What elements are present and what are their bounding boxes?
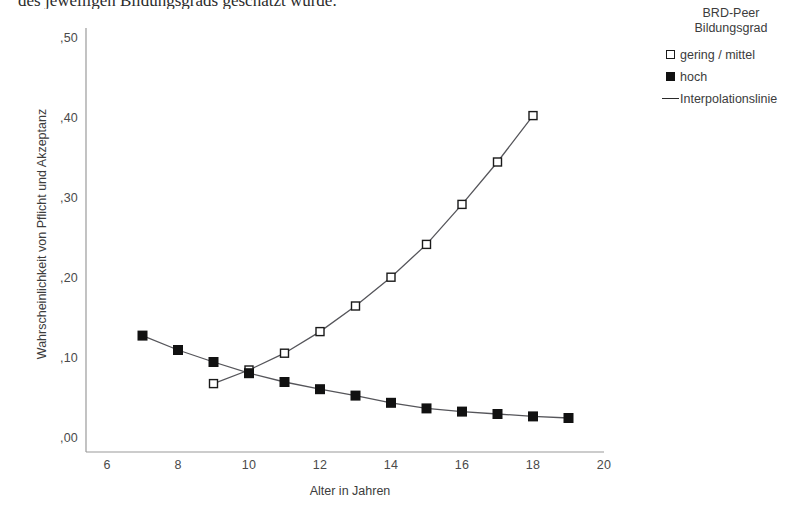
line-marker-icon (660, 98, 680, 99)
data-point-open (387, 273, 395, 281)
data-point-filled (422, 403, 432, 413)
y-tick-label: ,50 (44, 31, 78, 45)
x-tick-label: 16 (447, 458, 477, 472)
data-point-filled (244, 368, 254, 378)
data-point-filled (457, 407, 467, 417)
x-tick-label: 14 (376, 458, 406, 472)
y-tick-label: ,20 (44, 271, 78, 285)
data-point-open (352, 302, 360, 310)
data-point-open (423, 240, 431, 248)
data-point-filled (173, 345, 183, 355)
data-point-open (281, 349, 289, 357)
x-tick-label: 18 (518, 458, 548, 472)
x-tick-label: 8 (163, 458, 193, 472)
data-point-filled (315, 384, 325, 394)
legend-title-line-2: Bildungsgrad (666, 21, 796, 36)
legend-item-gering-mittel[interactable]: gering / mittel (660, 45, 796, 64)
x-tick-label: 6 (92, 458, 122, 472)
series-gering-mittel (210, 112, 538, 388)
data-point-filled (493, 409, 503, 419)
data-point-filled (564, 413, 574, 423)
x-tick-label: 12 (305, 458, 335, 472)
data-point-filled (138, 331, 148, 341)
series-line-hoch (143, 336, 569, 418)
x-tick-label: 10 (234, 458, 264, 472)
x-axis-title: Alter in Jahren (240, 484, 460, 498)
y-axis-title: Wahrscheinlichkeit von Pflicht und Akzep… (35, 69, 49, 399)
series-hoch (138, 331, 574, 423)
data-point-filled (528, 411, 538, 421)
y-tick-label: ,40 (44, 111, 78, 125)
y-tick-label: ,00 (44, 431, 78, 445)
data-point-filled (280, 377, 290, 387)
data-point-filled (351, 391, 361, 401)
legend-item-hoch[interactable]: hoch (660, 67, 796, 86)
x-tick-label: 20 (589, 458, 619, 472)
data-point-open (316, 328, 324, 336)
series-line-gering-mittel (214, 116, 534, 384)
data-point-open (494, 158, 502, 166)
legend-item-label: Interpolationslinie (680, 92, 777, 106)
y-tick-label: ,10 (44, 351, 78, 365)
data-point-filled (386, 398, 396, 408)
chart-figure: ,50 ,40 ,30 ,20 ,10 ,00 6 8 10 12 14 16 … (0, 0, 800, 527)
legend-title: BRD-Peer Bildungsgrad (660, 6, 796, 36)
chart-legend: BRD-Peer Bildungsgrad gering / mittel ho… (660, 6, 796, 111)
filled-square-marker-icon (660, 72, 680, 81)
data-point-open (529, 112, 537, 120)
data-point-filled (209, 357, 219, 367)
y-tick-label: ,30 (44, 191, 78, 205)
data-point-open (210, 380, 218, 388)
legend-item-label: gering / mittel (680, 48, 755, 62)
legend-item-label: hoch (680, 70, 707, 84)
data-point-open (458, 200, 466, 208)
legend-item-interpolationslinie[interactable]: Interpolationslinie (660, 89, 796, 108)
open-square-marker-icon (660, 50, 680, 59)
legend-title-line-1: BRD-Peer (666, 6, 796, 21)
